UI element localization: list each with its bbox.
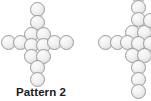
pattern-circle xyxy=(36,49,51,64)
pattern-circle xyxy=(59,35,74,50)
pattern-circle xyxy=(24,38,39,53)
pattern-circle xyxy=(137,25,151,40)
pattern-circle xyxy=(36,38,51,53)
pattern-label: Pattern 2 xyxy=(16,86,66,98)
pattern-circle xyxy=(36,27,51,42)
pattern-circle xyxy=(13,35,28,50)
pattern-circle xyxy=(30,72,45,87)
pattern-circle xyxy=(131,36,146,51)
pattern-circle xyxy=(30,2,45,17)
pattern-circle xyxy=(137,48,151,63)
pattern-circle xyxy=(125,25,140,40)
pattern-circle xyxy=(143,36,151,51)
pattern-circle xyxy=(98,35,113,50)
pattern-circle xyxy=(110,35,125,50)
pattern-circle xyxy=(24,49,39,64)
pattern-circle xyxy=(131,12,146,27)
pattern-circle xyxy=(143,13,151,28)
pattern-circle xyxy=(30,15,45,30)
pattern-circle xyxy=(125,48,140,63)
pattern-circle xyxy=(131,0,146,3)
figure-canvas: Pattern 2 xyxy=(0,0,151,101)
pattern-circle xyxy=(47,35,62,50)
pattern-circle xyxy=(30,60,45,75)
pattern-circle xyxy=(131,84,146,99)
pattern-circle xyxy=(131,0,146,15)
pattern-circle xyxy=(131,60,146,75)
pattern-circle xyxy=(24,27,39,42)
pattern-circle xyxy=(131,72,146,87)
pattern-circle xyxy=(1,35,16,50)
pattern-circle xyxy=(120,35,135,50)
